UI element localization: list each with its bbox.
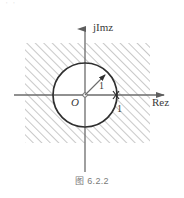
figure-container: ' ' xyxy=(0,0,184,198)
origin-label: O xyxy=(71,96,79,108)
complex-plane-diagram: jImz Rez O 1 1 xyxy=(0,0,184,198)
figure-caption: 图 6.2.2 xyxy=(0,174,184,187)
real-axis-label: Rez xyxy=(152,96,169,108)
radius-length-label: 1 xyxy=(99,80,104,91)
imaginary-axis-label: jImz xyxy=(92,21,113,33)
real-axis-unit-label: 1 xyxy=(117,103,122,114)
